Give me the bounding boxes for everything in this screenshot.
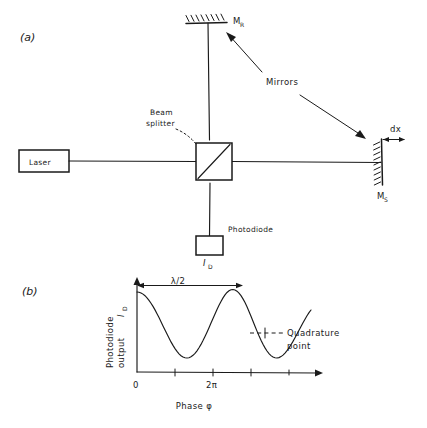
mirrors-arrow-to-sample-head	[355, 130, 366, 139]
beam-splitter: Beam splitter	[146, 108, 232, 180]
mirrors-label: Mirrors	[266, 77, 298, 87]
mirrors-arrow-to-reference-head	[226, 32, 236, 42]
figure-interferometer: (a) Laser M R	[0, 0, 427, 428]
beam-splitter-to-reference-mirror	[208, 23, 210, 140]
beam-laser-to-splitter	[69, 161, 196, 162]
beam-splitter-to-sample-mirror	[232, 162, 381, 163]
chart-period-annotation: λ/2	[137, 276, 243, 288]
chart-y-axis-arrow	[134, 277, 141, 285]
chart-x-axis-title: Phase φ	[176, 401, 213, 411]
chart-x-axis	[137, 372, 318, 373]
reference-mirror-surface	[186, 23, 227, 24]
displacement-arrow-head-left	[383, 137, 389, 142]
reference-mirror-hatching	[186, 14, 224, 21]
chart-y-axis-title-symbol: I	[116, 314, 126, 317]
displacement-arrow-head-right	[399, 137, 405, 142]
chart-y-axis-title-line2: output	[116, 337, 126, 368]
sample-mirror: M S	[374, 139, 389, 203]
chart-y-axis-title: Photodiode output I D	[105, 306, 128, 368]
sample-mirror-sublabel: S	[384, 196, 388, 203]
chart-quadrature-label-line2: point	[287, 341, 311, 351]
panel-a-label: (a)	[20, 31, 35, 44]
photodiode-label: Photodiode	[228, 225, 273, 234]
laser-label: Laser	[29, 158, 51, 167]
panel-a: (a) Laser M R	[19, 14, 405, 270]
mirrors-annotation: Mirrors	[226, 32, 366, 139]
chart-fringe-curve	[137, 290, 311, 359]
chart-quadrature-annotation: Quadrature point	[250, 328, 340, 351]
chart-x-tick-label-2pi: 2π	[206, 380, 217, 390]
chart-quadrature-label-line1: Quadrature	[287, 328, 340, 338]
chart-y-axis-title-symbol-sub: D	[121, 306, 128, 311]
photocurrent-label: I	[203, 258, 206, 268]
chart-x-tick-label-0: 0	[133, 380, 139, 390]
mirrors-arrow-to-sample-line	[300, 95, 364, 137]
chart-period-label: λ/2	[171, 276, 186, 286]
beam-splitter-label-line2: splitter	[146, 119, 175, 128]
reference-mirror: M R	[186, 14, 244, 28]
photodiode-box	[196, 236, 223, 255]
beam-splitter-leader	[176, 129, 196, 144]
panel-b: (b) 0 2π Phase φ Photodiode output I D	[22, 276, 340, 411]
sample-mirror-hatching	[374, 142, 381, 185]
chart-period-arrow-head-right	[236, 283, 243, 288]
beam-splitter-to-photodiode	[210, 183, 211, 236]
laser-source: Laser	[19, 150, 69, 172]
chart-y-axis-title-line1: Photodiode	[105, 316, 115, 368]
displacement-indicator: dx	[383, 124, 405, 142]
photodiode: Photodiode I D	[196, 225, 273, 270]
chart-x-axis-arrow	[315, 370, 323, 377]
sample-mirror-surface	[382, 139, 383, 185]
displacement-label: dx	[390, 124, 401, 134]
beam-splitter-label-line1: Beam	[150, 108, 173, 117]
photocurrent-sublabel: D	[208, 263, 213, 270]
reference-mirror-sublabel: R	[240, 21, 244, 28]
panel-b-label: (b)	[22, 285, 38, 298]
